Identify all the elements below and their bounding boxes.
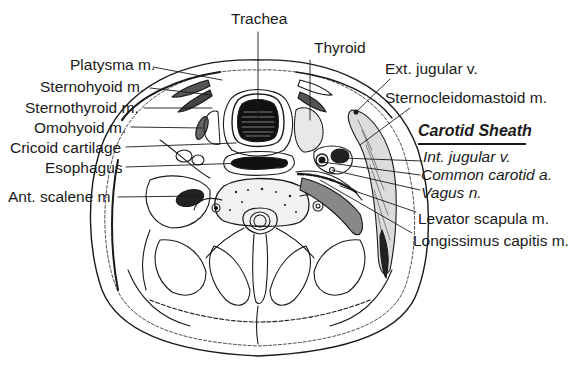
label-esophagus: Esophagus (45, 159, 123, 177)
leader-esophagus (126, 163, 246, 167)
leader-omohyoid (131, 127, 202, 128)
label-longissimus-capitis: Longissimus capitis m. (413, 232, 569, 250)
label-thyroid: Thyroid (314, 39, 366, 57)
spinous-process (253, 234, 268, 304)
splenius-left (155, 240, 206, 295)
left-border-strip (112, 160, 118, 290)
leader-cricoid (126, 143, 236, 147)
carotid-sheath-heading: Carotid Sheath (418, 122, 532, 140)
vertebral-body (215, 179, 309, 227)
lamina-left (206, 228, 244, 258)
jugular-left (176, 150, 192, 162)
lamina-right (276, 228, 314, 258)
semispinalis-right (270, 246, 310, 305)
carotid-sheath-underline (418, 143, 526, 145)
label-cricoid-cartilage: Cricoid cartilage (10, 139, 121, 157)
splenius-right (314, 240, 365, 295)
semispinalis-left (210, 246, 250, 305)
label-platysma: Platysma m. (70, 56, 155, 74)
posterior-left (128, 270, 190, 326)
ant-scalene-left (174, 187, 205, 210)
label-vagus: Vagus n. (421, 184, 482, 202)
neck-cross-section-figure: Trachea Thyroid Platysma m. Sternohyoid … (0, 0, 578, 372)
nuchal-ligament (257, 306, 259, 344)
posterior-right (330, 270, 392, 326)
levator-left (143, 230, 150, 290)
label-omohyoid: Omohyoid m. (34, 119, 126, 137)
thyroid-lobe (294, 108, 323, 152)
label-ext-jugular: Ext. jugular v. (385, 60, 478, 78)
label-common-carotid: Common carotid a. (421, 166, 552, 184)
label-ant-scalene: Ant. scalene m. (8, 188, 115, 206)
label-levator-scapula: Levator scapula m. (418, 210, 549, 228)
label-trachea: Trachea (231, 10, 287, 28)
internal-jugular-vein (331, 149, 349, 163)
label-sternocleidomastoid: Sternocleidomastoid m. (385, 89, 547, 107)
label-int-jugular: Int. jugular v. (423, 148, 511, 166)
label-sternohyoid: Sternohyoid m. (40, 78, 144, 96)
carotid-left (192, 155, 204, 165)
label-sternothyroid: Sternothyroid m. (25, 99, 139, 117)
